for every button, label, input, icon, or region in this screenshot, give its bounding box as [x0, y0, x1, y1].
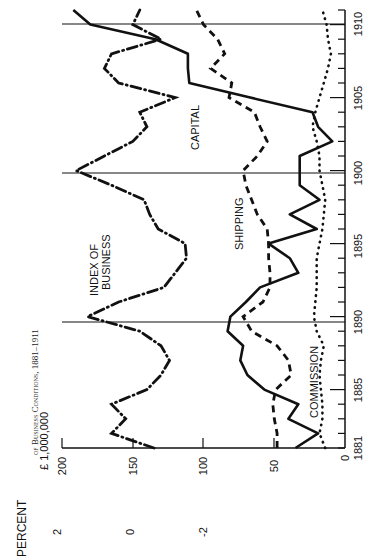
- year-tick-1895: 1895: [352, 234, 364, 258]
- series-labels: INDEX OF BUSINESS CAPITAL SHIPPING COMMI…: [88, 105, 320, 418]
- year-axis-ticks: [330, 10, 345, 448]
- percent-tick-2: 2: [51, 529, 63, 535]
- percent-ticks: 2 0 -2: [51, 527, 209, 537]
- unit-label: £ 1,000,000: [38, 412, 50, 470]
- year-tick-1900: 1900: [352, 161, 364, 185]
- value-tick-100: 100: [197, 457, 209, 475]
- percent-tick-minus-2: -2: [197, 527, 209, 537]
- value-tick-50: 50: [268, 460, 280, 472]
- value-axis-labels: 200 150 100 50 0: [56, 455, 351, 475]
- label-capital: CAPITAL: [189, 105, 201, 150]
- series-index-line: [76, 10, 186, 448]
- percent-tick-0: 0: [124, 529, 136, 535]
- value-axis-ticks: [62, 438, 274, 448]
- value-tick-0: 0: [339, 455, 351, 461]
- value-tick-150: 150: [127, 457, 139, 475]
- value-tick-200: 200: [56, 457, 68, 475]
- year-tick-1890: 1890: [352, 310, 364, 334]
- rotated-line-chart: of Business Conditions, 1881–1911 PERCEN…: [0, 0, 376, 557]
- label-index: INDEX OF: [88, 244, 100, 296]
- year-tick-1905: 1905: [352, 86, 364, 110]
- label-commission: COMMISSION: [308, 346, 320, 418]
- label-shipping: SHIPPING: [233, 197, 245, 250]
- year-tick-1885: 1885: [352, 378, 364, 402]
- left-axis-title: PERCENT: [15, 499, 29, 557]
- label-business: BUSINESS: [100, 234, 112, 290]
- year-tick-1881: 1881: [352, 436, 364, 460]
- year-tick-1910: 1910: [352, 12, 364, 36]
- year-axis-labels: 1881 1885 1890 1895 1900 1905 1910: [352, 12, 364, 460]
